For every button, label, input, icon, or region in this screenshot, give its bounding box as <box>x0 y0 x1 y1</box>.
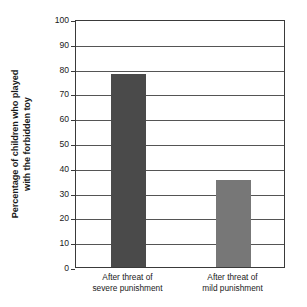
y-axis-tick-mark <box>71 120 75 121</box>
x-axis-category-line-2: severe punishment <box>75 283 180 294</box>
plot-area: 0102030405060708090100 <box>75 20 285 268</box>
x-axis-category-label: After threat ofsevere punishment <box>75 272 180 293</box>
y-axis-tick-mark <box>71 95 75 96</box>
gridline <box>76 95 284 96</box>
y-axis-title-text: Percentage of children who played with t… <box>10 70 33 218</box>
y-axis-tick-label: 80 <box>59 66 69 75</box>
y-axis-tick-label: 90 <box>59 41 69 50</box>
y-axis-title: Percentage of children who played with t… <box>8 20 34 268</box>
bar <box>216 180 251 267</box>
gridline <box>76 46 284 47</box>
y-axis-tick-label: 0 <box>64 264 69 273</box>
x-axis-category-line-2: mild punishment <box>180 283 285 294</box>
x-axis-category-label: After threat ofmild punishment <box>180 272 285 293</box>
gridline <box>76 145 284 146</box>
y-axis-tick-mark <box>71 244 75 245</box>
y-axis-tick-label: 10 <box>59 239 69 248</box>
y-axis-tick-mark <box>71 145 75 146</box>
y-axis-tick-label: 40 <box>59 165 69 174</box>
gridline <box>76 120 284 121</box>
bar-chart-figure: Percentage of children who played with t… <box>0 0 307 307</box>
gridline <box>76 219 284 220</box>
gridline <box>76 170 284 171</box>
y-axis-tick-mark <box>71 71 75 72</box>
gridline <box>76 195 284 196</box>
y-axis-tick-label: 100 <box>55 16 69 25</box>
gridline <box>76 244 284 245</box>
y-axis-tick-mark <box>71 21 75 22</box>
y-axis-tick-mark <box>71 46 75 47</box>
y-axis-tick-label: 70 <box>59 90 69 99</box>
x-axis-category-line-1: After threat of <box>102 272 152 282</box>
bar <box>111 74 146 267</box>
y-axis-tick-label: 30 <box>59 190 69 199</box>
y-axis-tick-mark <box>71 195 75 196</box>
y-axis-tick-label: 50 <box>59 140 69 149</box>
y-axis-tick-label: 60 <box>59 115 69 124</box>
y-axis-title-line-1: Percentage of children who played <box>10 70 20 218</box>
y-axis-tick-mark <box>71 269 75 270</box>
gridline <box>76 71 284 72</box>
y-axis-tick-mark <box>71 219 75 220</box>
y-axis-title-line-2: with the forbidden toy <box>21 70 33 218</box>
y-axis-tick-mark <box>71 170 75 171</box>
y-axis-tick-label: 20 <box>59 214 69 223</box>
x-axis-category-line-1: After threat of <box>207 272 257 282</box>
